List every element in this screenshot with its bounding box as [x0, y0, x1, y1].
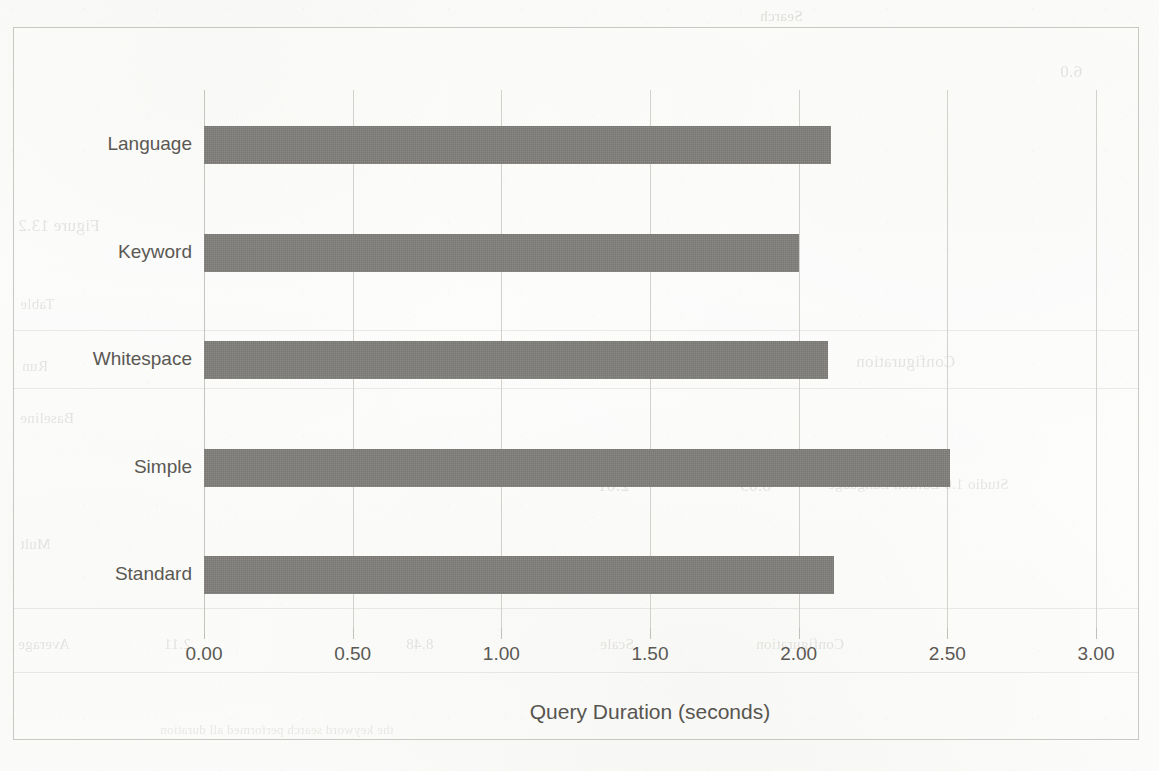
category-label-language: Language [26, 133, 192, 155]
tick-mark-1.00 [501, 628, 502, 639]
x-tick-label: 1.50 [605, 643, 695, 665]
tick-mark-3.00 [1096, 628, 1097, 639]
tick-mark-0.50 [353, 628, 354, 639]
category-label-standard: Standard [26, 563, 192, 585]
bar-row: Simple [204, 413, 1096, 521]
scanned-page: Search6.0Figure 13.2TableRunTime (min)Sc… [0, 0, 1159, 771]
chart-frame: Query Duration (seconds) 0.000.501.001.5… [13, 27, 1139, 740]
tick-mark-0.00 [204, 628, 205, 639]
bar-row: Standard [204, 520, 1096, 628]
plot-area: Query Duration (seconds) 0.000.501.001.5… [204, 90, 1096, 628]
category-label-keyword: Keyword [26, 241, 192, 263]
x-tick-label: 3.00 [1051, 643, 1141, 665]
category-label-whitespace: Whitespace [26, 348, 192, 370]
tick-mark-2.50 [947, 628, 948, 639]
bleed-through-text: Search [760, 8, 803, 25]
bar-row: Language [204, 90, 1096, 198]
category-label-simple: Simple [26, 456, 192, 478]
gridline-3.00 [1096, 90, 1097, 628]
bar-row: Keyword [204, 198, 1096, 306]
x-tick-label: 0.00 [159, 643, 249, 665]
bar-whitespace[interactable] [204, 341, 828, 379]
x-axis-title: Query Duration (seconds) [204, 700, 1096, 724]
x-tick-label: 2.00 [754, 643, 844, 665]
tick-mark-2.00 [799, 628, 800, 639]
bar-row: Whitespace [204, 305, 1096, 413]
bar-keyword[interactable] [204, 234, 799, 272]
bar-language[interactable] [204, 126, 831, 164]
x-tick-label: 1.00 [456, 643, 546, 665]
tick-mark-1.50 [650, 628, 651, 639]
x-tick-label: 2.50 [902, 643, 992, 665]
x-tick-label: 0.50 [308, 643, 398, 665]
bar-simple[interactable] [204, 449, 950, 487]
bar-standard[interactable] [204, 556, 834, 594]
